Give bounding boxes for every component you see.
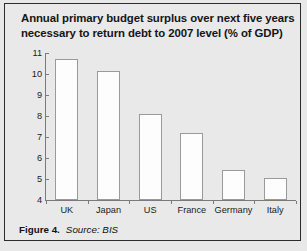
x-axis-tick-label: Japan: [96, 205, 121, 215]
y-axis-tick-label: 9: [10, 90, 42, 100]
x-axis-tick: [254, 201, 255, 204]
source-prefix-label: Source:: [66, 224, 100, 235]
x-axis-tick: [213, 201, 214, 204]
y-axis-tick-label: 4: [10, 195, 42, 205]
y-axis-tick: [45, 137, 49, 138]
y-axis-tick: [45, 116, 49, 117]
bar: [55, 59, 78, 200]
x-axis-tick: [88, 201, 89, 204]
y-axis-tick: [45, 95, 49, 96]
y-axis-tick-label: 5: [10, 174, 42, 184]
figure-frame: Annual primary budget surplus over next …: [4, 3, 301, 241]
y-axis-tick-label: 8: [10, 111, 42, 121]
x-axis-tick: [129, 201, 130, 204]
y-axis-tick-label: 10: [10, 69, 42, 79]
x-axis-tick-label: UK: [60, 205, 73, 215]
y-axis-tick-label: 11: [10, 48, 42, 58]
figure-number-label: Figure 4.: [19, 224, 60, 235]
y-axis-tick: [45, 53, 49, 54]
bar: [180, 133, 203, 200]
y-axis-tick: [45, 179, 49, 180]
source-name-label: BIS: [102, 224, 118, 235]
x-axis-tick-label: US: [144, 205, 157, 215]
y-axis-tick-label: 6: [10, 153, 42, 163]
figure-caption: Figure 4.Source: BIS: [19, 224, 118, 235]
x-axis-tick: [171, 201, 172, 204]
y-axis-tick: [45, 74, 49, 75]
x-axis-tick-label: Italy: [267, 205, 284, 215]
x-axis-tick-label: France: [178, 205, 207, 215]
chart-title: Annual primary budget surplus over next …: [21, 11, 299, 41]
bar: [139, 114, 162, 200]
figure-container: Annual primary budget surplus over next …: [0, 0, 307, 251]
bar: [264, 178, 287, 200]
x-axis-tick: [296, 201, 297, 204]
chart-title-line-1: Annual primary budget surplus over next …: [21, 12, 295, 24]
bar: [222, 170, 245, 200]
bar: [97, 71, 120, 200]
x-axis-tick-label: Germany: [215, 205, 253, 215]
chart-title-line-2: necessary to return debt to 2007 level (…: [21, 26, 299, 41]
y-axis-tick-label: 7: [10, 132, 42, 142]
y-axis-tick: [45, 158, 49, 159]
x-axis-tick: [46, 201, 47, 204]
